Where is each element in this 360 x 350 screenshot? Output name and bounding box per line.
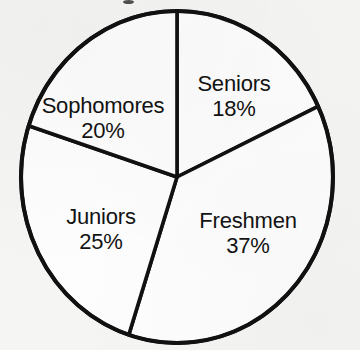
pie-chart-page: Seniors 18% Freshmen 37% Juniors 25% Sop… xyxy=(0,0,360,350)
slice-value-juniors: 25% xyxy=(66,229,136,254)
slice-name-juniors: Juniors xyxy=(66,204,136,229)
slice-name-freshmen: Freshmen xyxy=(199,208,296,233)
slice-value-seniors: 18% xyxy=(197,96,270,121)
slice-name-seniors: Seniors xyxy=(197,71,270,96)
slice-label-freshmen: Freshmen 37% xyxy=(199,208,296,258)
slice-name-sophomores: Sophomores xyxy=(42,93,165,118)
pie-chart-graphic xyxy=(0,0,360,350)
slice-label-sophomores: Sophomores 20% xyxy=(42,93,165,143)
slice-value-sophomores: 20% xyxy=(42,118,165,143)
slice-label-juniors: Juniors 25% xyxy=(66,204,136,254)
slice-label-seniors: Seniors 18% xyxy=(197,71,270,121)
slice-value-freshmen: 37% xyxy=(199,233,296,258)
